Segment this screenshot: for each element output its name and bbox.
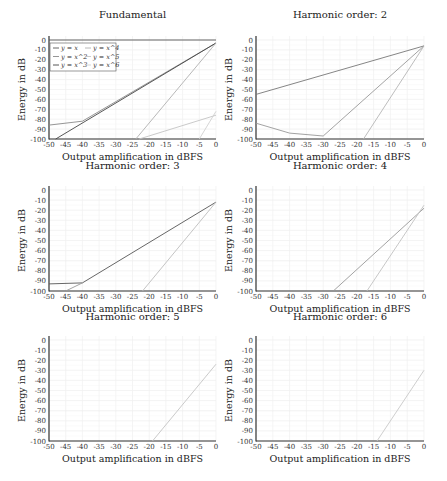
- x-tick-label: -30: [318, 293, 329, 301]
- series-line: [333, 208, 424, 291]
- x-tick-label: -5: [404, 141, 411, 149]
- y-tick-label: -60: [35, 397, 46, 405]
- y-tick-label: -80: [242, 267, 253, 275]
- y-tick-label: -90: [35, 126, 46, 134]
- y-tick-label: -30: [242, 66, 253, 74]
- legend-entry: y = x^4: [92, 44, 120, 52]
- legend-entry: y = x^2: [60, 53, 88, 61]
- x-tick-label: -35: [93, 293, 104, 301]
- x-tick-label: -30: [318, 141, 329, 149]
- harmonic-energy-figure: -50-45-40-35-30-25-20-15-10-500-10-20-30…: [0, 0, 447, 481]
- x-tick-label: -10: [177, 141, 188, 149]
- x-tick-label: -30: [110, 293, 121, 301]
- x-tick-label: -35: [93, 443, 104, 451]
- y-tick-label: 0: [249, 187, 253, 195]
- chart-title: Harmonic order: 5: [85, 311, 179, 322]
- x-tick-label: 0: [422, 293, 426, 301]
- grid: [49, 336, 216, 441]
- x-tick-label: -45: [267, 293, 278, 301]
- x-tick-label: -20: [351, 443, 362, 451]
- x-tick-label: -30: [110, 141, 121, 149]
- x-tick-label: -40: [77, 443, 88, 451]
- y-axis-label: Energy in dB: [16, 209, 27, 272]
- y-axis-label: Energy in dB: [16, 359, 27, 422]
- y-tick-label: -30: [35, 367, 46, 375]
- y-tick-label: -10: [242, 46, 253, 54]
- y-tick-label: -30: [242, 367, 253, 375]
- y-tick-label: -60: [35, 96, 46, 104]
- y-tick-label: -60: [35, 247, 46, 255]
- x-tick-label: -25: [127, 141, 138, 149]
- x-tick-label: -25: [334, 293, 345, 301]
- x-tick-label: -10: [177, 293, 188, 301]
- series-line: [153, 364, 217, 441]
- x-tick-label: -15: [368, 443, 379, 451]
- y-tick-label: -80: [35, 417, 46, 425]
- x-tick-label: 0: [214, 141, 218, 149]
- chart-title: Harmonic order: 4: [293, 160, 387, 171]
- series-line: [139, 115, 216, 139]
- x-tick-label: -20: [351, 293, 362, 301]
- chart-panel-2: -50-45-40-35-30-25-20-15-10-500-10-20-30…: [223, 9, 426, 162]
- y-tick-label: -80: [242, 417, 253, 425]
- y-tick-label: -30: [35, 66, 46, 74]
- series-line: [367, 205, 424, 291]
- grid: [49, 186, 216, 291]
- x-tick-label: 0: [422, 141, 426, 149]
- y-tick-label: -50: [35, 86, 46, 94]
- y-tick-label: 0: [42, 337, 46, 345]
- x-tick-label: -15: [160, 141, 171, 149]
- y-tick-label: -20: [242, 357, 253, 365]
- x-tick-label: -15: [368, 293, 379, 301]
- legend: y = xy = x^2y = x^3y = x^4y = x^5y = x^6: [50, 43, 120, 71]
- legend-entry: y = x^5: [92, 53, 120, 61]
- y-tick-label: -20: [35, 207, 46, 215]
- y-tick-label: -40: [242, 76, 253, 84]
- series-line: [66, 283, 83, 291]
- chart-title: Fundamental: [99, 9, 166, 20]
- grid: [256, 336, 424, 441]
- x-tick-label: -10: [177, 443, 188, 451]
- y-tick-label: -10: [35, 347, 46, 355]
- x-tick-label: 0: [214, 443, 218, 451]
- y-tick-label: -60: [242, 397, 253, 405]
- x-tick-label: -40: [284, 293, 295, 301]
- chart-panel-5: -50-45-40-35-30-25-20-15-10-500-10-20-30…: [16, 311, 218, 464]
- legend-entry: y = x: [60, 44, 78, 52]
- y-tick-label: -50: [35, 387, 46, 395]
- chart-panel-4: -50-45-40-35-30-25-20-15-10-500-10-20-30…: [223, 160, 426, 314]
- x-tick-label: -45: [267, 141, 278, 149]
- x-tick-label: -40: [284, 141, 295, 149]
- chart-title: Harmonic order: 2: [293, 9, 387, 20]
- chart-title: Harmonic order: 3: [85, 160, 179, 171]
- y-tick-label: 0: [249, 37, 253, 45]
- x-axis-label: Output amplification in dBFS: [62, 453, 203, 464]
- y-tick-label: -80: [35, 267, 46, 275]
- chart-panel-6: -50-45-40-35-30-25-20-15-10-500-10-20-30…: [223, 311, 426, 464]
- series-line: [199, 111, 216, 139]
- y-tick-label: -20: [35, 357, 46, 365]
- y-tick-label: -100: [30, 438, 46, 446]
- x-tick-label: -5: [404, 443, 411, 451]
- x-tick-label: -40: [284, 443, 295, 451]
- y-tick-label: -90: [35, 277, 46, 285]
- x-tick-label: -20: [351, 141, 362, 149]
- y-tick-label: -50: [35, 237, 46, 245]
- y-tick-label: -90: [242, 277, 253, 285]
- y-axis-label: Energy in dB: [223, 359, 234, 422]
- x-tick-label: -30: [318, 443, 329, 451]
- y-tick-label: -70: [242, 257, 253, 265]
- y-tick-label: -80: [242, 116, 253, 124]
- x-tick-label: -25: [127, 293, 138, 301]
- x-tick-label: -35: [301, 293, 312, 301]
- y-tick-label: 0: [42, 187, 46, 195]
- y-tick-label: -10: [35, 197, 46, 205]
- x-tick-label: -25: [334, 141, 345, 149]
- x-tick-label: -20: [144, 293, 155, 301]
- x-tick-label: -5: [196, 443, 203, 451]
- x-tick-label: -45: [267, 443, 278, 451]
- y-tick-label: -10: [35, 46, 46, 54]
- x-tick-label: -35: [301, 141, 312, 149]
- legend-entry: y = x^6: [92, 61, 120, 69]
- x-tick-label: -10: [385, 443, 396, 451]
